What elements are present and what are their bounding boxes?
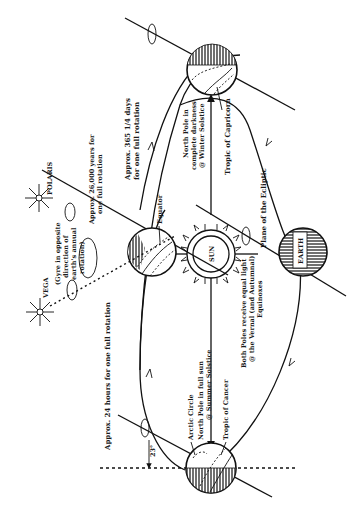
label-winter-1: North Pole in [182, 109, 190, 158]
label-winter-2: complete darkness [190, 101, 198, 170]
label-equinox-1: Both Poles receive equal light [240, 259, 248, 368]
label-gyre-2: direction of [62, 234, 70, 278]
label-polaris: POLARIS [46, 161, 54, 195]
label-gyre-4: rotation) [78, 241, 86, 274]
label-orbit-1: Approx. 365 1/4 days [123, 98, 132, 181]
orbit-arrow-down-right [266, 138, 272, 146]
earth-label: EARTH [297, 238, 305, 264]
sun-label: SUN [208, 246, 216, 262]
label-precession-1: Approx. 26,000 years for [88, 134, 96, 225]
label-equinox-3: Equinoxes [256, 280, 264, 318]
label-summer-2: @ Summer Solstice [205, 350, 213, 420]
label-orbit-2: for one full rotation [132, 102, 141, 180]
orbit-arrow-left [146, 369, 152, 378]
label-equinox-2: @ the Vernal (and Autumnal) [248, 256, 256, 362]
label-plane-ecliptic: Plane of the Ecliptic [259, 168, 268, 248]
label-gyre-3: earth's annual [70, 227, 78, 280]
label-equator: Equator [156, 194, 164, 224]
label-winter-3: @ Winter Solstice [198, 103, 206, 168]
label-summer-1: North Pole in full sun [197, 361, 205, 440]
label-arctic-circle: Arctic Circle [187, 394, 195, 441]
precession-rotation-icon-3 [67, 280, 77, 300]
vega-star-icon [26, 298, 54, 326]
label-tropic-capricorn: Tropic of Capricorn [223, 99, 232, 175]
globe-winter-solstice [187, 44, 237, 95]
label-tropic-cancer: Tropic of Cancer [222, 379, 230, 440]
label-daily-rotation: Approx. 24 hours for one full rotation [103, 302, 112, 451]
label-precession-2: one full rotation [96, 154, 104, 214]
orbit-arrow-bottom-right [289, 358, 295, 366]
earth-orbit-diagram: Tropic of Capricorn North Pole in comple… [0, 0, 361, 532]
label-tilt-angle: 23° [149, 445, 157, 457]
label-vega: VEGA [42, 276, 50, 299]
globe-earth-equinox: EARTH [279, 228, 327, 276]
precession-rotation-icon-1 [65, 203, 75, 221]
label-gyre-1: (Gyre in opposite [54, 222, 62, 285]
